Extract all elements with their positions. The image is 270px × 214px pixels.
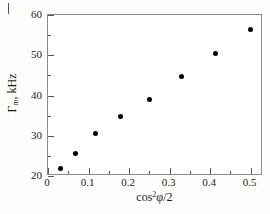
x-axis-tick (89, 168, 90, 174)
x-axis-tick-label: 0 (44, 177, 50, 188)
data-point (58, 166, 63, 171)
x-axis-tick (251, 168, 252, 174)
y-axis-tick-label: 30 (31, 129, 42, 140)
x-axis-minor-tick (190, 171, 191, 174)
x-axis-tick (129, 168, 130, 174)
y-axis-tick-label: 50 (31, 49, 42, 60)
data-point (118, 114, 123, 119)
figure-label-stub (8, 3, 9, 14)
y-axis-minor-tick (48, 156, 51, 157)
y-axis-minor-tick (48, 35, 51, 36)
y-axis-tick-label: 60 (31, 9, 42, 20)
y-axis-tick (48, 96, 54, 97)
x-axis-tick-label: 0.2 (121, 177, 135, 188)
data-point (73, 151, 78, 156)
y-axis-tick (48, 15, 54, 16)
y-axis-tick-label: 20 (31, 170, 42, 181)
x-axis-tick-label: 0.1 (81, 177, 95, 188)
x-axis-minor-tick (230, 171, 231, 174)
x-axis-tick (170, 168, 171, 174)
y-axis-tick (48, 55, 54, 56)
x-axis-tick (210, 168, 211, 174)
x-axis-tick-label: 0.3 (162, 177, 176, 188)
figure-root: 2030405060 00.10.20.30.40.5 cos2φ/2 Γm, … (0, 0, 270, 214)
x-axis-tick-label: 0.5 (243, 177, 257, 188)
y-axis-minor-tick (48, 75, 51, 76)
y-axis-minor-tick (48, 116, 51, 117)
x-axis-minor-tick (68, 171, 69, 174)
x-axis-tick-label: 0.4 (202, 177, 216, 188)
plot-frame (47, 14, 262, 175)
x-axis-tick (48, 168, 49, 174)
y-axis-tick-label: 40 (31, 89, 42, 100)
y-axis-tick (48, 136, 54, 137)
data-point (147, 97, 152, 102)
y-axis-title: Γm, kHz (6, 58, 20, 128)
plot-area (48, 15, 261, 174)
data-point (179, 74, 184, 79)
data-point (213, 51, 218, 56)
y-axis-tick (48, 176, 54, 177)
data-point (93, 131, 98, 136)
data-point (248, 27, 253, 32)
x-axis-minor-tick (149, 171, 150, 174)
x-axis-title: cos2φ/2 (47, 191, 262, 205)
x-axis-minor-tick (109, 171, 110, 174)
